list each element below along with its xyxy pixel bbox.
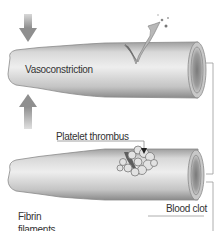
label-blood-clot: Blood clot <box>166 203 207 214</box>
label-platelet-thrombus: Platelet thrombus <box>56 131 129 142</box>
vessel-top <box>8 14 206 98</box>
bracket-right <box>206 63 213 231</box>
label-filaments: filaments <box>18 224 55 231</box>
hemostasis-diagram: Vasoconstriction Platelet thrombus Fibri… <box>0 0 218 231</box>
label-fibrin: Fibrin <box>18 211 41 222</box>
vessel-bottom <box>8 149 204 200</box>
arrow-up-icon <box>19 94 37 129</box>
diagram-artwork <box>0 0 218 231</box>
arrow-down-icon <box>19 14 37 42</box>
label-vasoconstriction: Vasoconstriction <box>25 64 93 75</box>
